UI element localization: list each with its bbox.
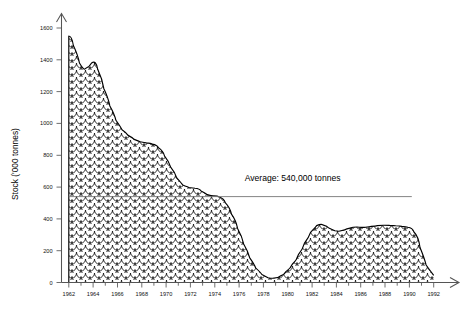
y-tick-label: 1600 (40, 25, 52, 31)
y-tick-label: 1200 (40, 89, 52, 95)
y-axis (57, 14, 67, 283)
x-tick-label: 1964 (87, 291, 99, 297)
x-tick-label: 1972 (184, 291, 196, 297)
y-tick-label: 0 (49, 280, 52, 286)
x-tick-label: 1992 (427, 291, 439, 297)
x-tick-label: 1984 (330, 291, 342, 297)
x-tick-label: 1978 (257, 291, 269, 297)
x-tick-label: 1988 (379, 291, 391, 297)
x-tick-label: 1962 (63, 291, 75, 297)
y-tick-label: 600 (43, 184, 52, 190)
x-axis-ticks: 1962196419661968197019721974197619781980… (63, 283, 440, 297)
y-tick-label: 800 (43, 152, 52, 158)
stock-area-chart: 02004006008001000120014001600 1962196419… (0, 0, 466, 312)
x-tick-label: 1980 (281, 291, 293, 297)
x-tick-label: 1990 (403, 291, 415, 297)
x-tick-label: 1968 (136, 291, 148, 297)
y-tick-label: 200 (43, 248, 52, 254)
chart-root: 02004006008001000120014001600 1962196419… (0, 0, 466, 312)
x-tick-label: 1986 (354, 291, 366, 297)
stock-area-fill (0, 0, 466, 312)
x-tick-label: 1970 (160, 291, 172, 297)
y-axis-ticks: 02004006008001000120014001600 (40, 25, 61, 286)
y-axis-label: Stock ('000 tonnes) (10, 128, 20, 200)
average-annotation-label: Average: 540,000 tonnes (245, 173, 341, 183)
y-tick-label: 400 (43, 216, 52, 222)
x-tick-label: 1974 (209, 291, 221, 297)
plot-area (0, 0, 466, 312)
x-tick-label: 1976 (233, 291, 245, 297)
y-tick-label: 1000 (40, 120, 52, 126)
y-tick-label: 1400 (40, 57, 52, 63)
x-tick-label: 1982 (306, 291, 318, 297)
x-tick-label: 1966 (111, 291, 123, 297)
